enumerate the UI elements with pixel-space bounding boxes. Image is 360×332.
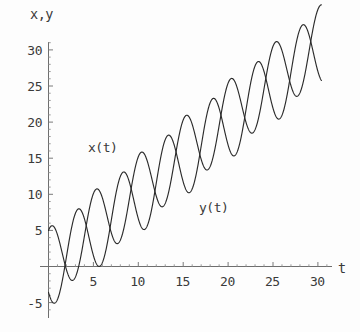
y-tick-label-20: 20: [16, 116, 42, 129]
axis-ticks: [49, 43, 327, 310]
x-tick-label-25: 25: [265, 275, 280, 288]
y-tick-label-10: 10: [16, 188, 42, 201]
y-tick-label-30: 30: [16, 44, 42, 57]
y-tick-label-15: 15: [16, 152, 42, 165]
x-tick-label-5: 5: [89, 275, 96, 288]
x-tick-label-30: 30: [310, 275, 325, 288]
series-label-y: y(t): [199, 201, 228, 214]
x-tick-label-20: 20: [220, 275, 235, 288]
x-tick-label-15: 15: [175, 275, 190, 288]
y-tick-label-5: 5: [16, 224, 42, 237]
y-axis-label: x,y: [30, 8, 53, 22]
x-tick-label-10: 10: [130, 275, 145, 288]
y-tick-label-25: 25: [16, 80, 42, 93]
chart-figure: x,y t x(t) y(t) 51015202530-551015202530: [0, 0, 360, 332]
x-axis-label: t: [338, 262, 346, 276]
curve-yt: [49, 25, 322, 304]
y-tick-label--5: -5: [16, 297, 42, 310]
series-label-x: x(t): [88, 141, 117, 154]
